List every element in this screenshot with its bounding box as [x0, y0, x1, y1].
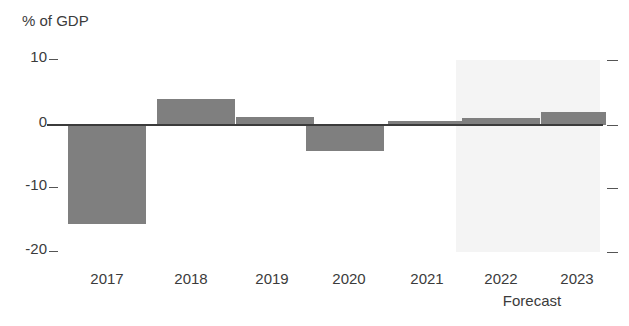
y-right-tick-0 [607, 125, 618, 126]
y-tick-label-neg20: -20 [6, 240, 58, 257]
zero-baseline [47, 124, 603, 126]
y-tick-label-neg10: -10 [6, 176, 58, 193]
bar-2017 [68, 126, 146, 224]
y-right-tick-10 [607, 60, 618, 61]
x-tick-label-2023: 2023 [538, 270, 616, 287]
forecast-caption: Forecast [472, 292, 592, 309]
y-tick-dash [49, 187, 58, 188]
bar-chart: % of GDP 10 0 -10 -20 2017 2018 2 [0, 0, 629, 326]
y-right-tick-neg20 [607, 252, 618, 253]
x-tick-label-2020: 2020 [310, 270, 388, 287]
forecast-shaded-region [456, 60, 600, 252]
x-tick-label-2019: 2019 [233, 270, 311, 287]
y-tick-dash [49, 251, 58, 252]
x-tick-label-2021: 2021 [388, 270, 466, 287]
bar-2020 [306, 126, 384, 151]
x-tick-label-2018: 2018 [152, 270, 230, 287]
plot-area: 10 0 -10 -20 2017 2018 2019 2020 2021 20… [0, 0, 629, 326]
y-tick-label-10: 10 [6, 48, 58, 65]
y-tick-dash [49, 59, 58, 60]
x-tick-label-2022: 2022 [462, 270, 540, 287]
y-tick-label-0: 0 [6, 113, 58, 130]
bar-2018 [157, 99, 235, 125]
y-right-tick-neg10 [607, 188, 618, 189]
x-tick-label-2017: 2017 [68, 270, 146, 287]
